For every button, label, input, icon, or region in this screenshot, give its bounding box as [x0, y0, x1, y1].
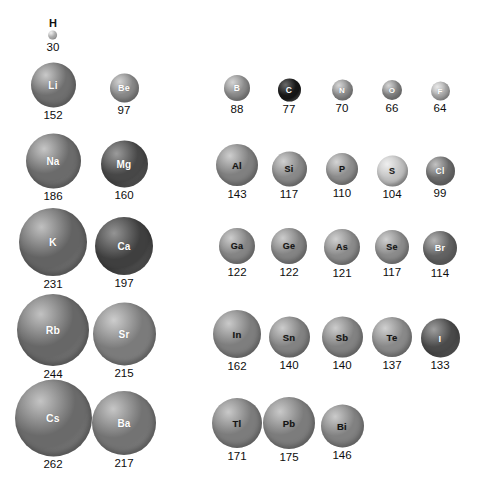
atomic-radius-value: 175	[263, 451, 315, 464]
atom-sphere-icon	[92, 391, 156, 455]
element-cs: Cs262	[15, 379, 92, 471]
atomic-radius-value: 114	[423, 267, 457, 280]
atomic-radius-value: 121	[324, 267, 360, 280]
atom-sphere-icon	[269, 316, 310, 357]
atom-sphere-icon	[213, 310, 261, 358]
sphere-container: Cl	[426, 156, 455, 185]
atomic-radius-value: 140	[322, 359, 363, 372]
atom-sphere-icon	[372, 317, 412, 357]
atomic-radius-value: 162	[213, 360, 261, 373]
element-ga: Ga122	[219, 228, 255, 279]
sphere-container: In	[213, 310, 261, 358]
sphere-container: Mg	[101, 140, 148, 187]
atomic-radius-value: 117	[272, 188, 307, 201]
atom-sphere-icon	[377, 155, 408, 186]
element-in: In162	[213, 310, 261, 373]
atomic-radius-value: 66	[382, 102, 402, 115]
sphere-container: Bi	[321, 404, 364, 447]
element-i: I133	[421, 318, 460, 372]
element-symbol-label: H	[47, 17, 60, 29]
atomic-radius-value: 160	[101, 189, 148, 202]
element-c: C77	[278, 78, 301, 116]
element-f: F64	[431, 81, 450, 115]
element-sb: Sb140	[322, 316, 363, 372]
sphere-container: Ca	[95, 217, 153, 275]
atom-sphere-icon	[19, 208, 87, 276]
element-s: S104	[377, 155, 408, 201]
atom-sphere-icon	[26, 133, 81, 188]
element-o: O66	[382, 80, 402, 115]
atom-sphere-icon	[216, 144, 258, 186]
sphere-container: N	[332, 79, 353, 100]
atomic-radius-value: 110	[326, 187, 358, 200]
atom-sphere-icon	[110, 73, 139, 102]
sphere-container: Ba	[92, 391, 156, 455]
element-se: Se117	[375, 230, 409, 279]
atom-sphere-icon	[271, 228, 307, 264]
sphere-container: F	[431, 81, 450, 100]
sphere-container: Rb	[17, 294, 89, 366]
atom-sphere-icon	[93, 302, 156, 365]
atomic-radius-value: 88	[224, 103, 250, 116]
atom-sphere-icon	[95, 217, 153, 275]
element-al: Al143	[216, 144, 258, 201]
atomic-radius-value: 146	[321, 449, 364, 462]
atom-sphere-icon	[272, 151, 307, 186]
atom-sphere-icon	[324, 229, 360, 265]
sphere-container: Te	[372, 317, 412, 357]
element-br: Br114	[423, 231, 457, 280]
element-te: Te137	[372, 317, 412, 372]
atomic-radius-value: 104	[377, 188, 408, 201]
element-sr: Sr215	[93, 302, 156, 380]
atom-sphere-icon	[212, 398, 262, 448]
element-h: H30	[47, 17, 60, 54]
sphere-container: Ge	[271, 228, 307, 264]
sphere-container: Li	[31, 62, 76, 107]
element-n: N70	[332, 79, 353, 115]
element-mg: Mg160	[101, 140, 148, 202]
sphere-container: Na	[26, 133, 81, 188]
element-as: As121	[324, 229, 360, 280]
atomic-radius-value: 215	[93, 367, 156, 380]
element-ge: Ge122	[271, 228, 307, 279]
atomic-radius-value: 117	[375, 266, 409, 279]
atomic-radius-value: 122	[219, 266, 255, 279]
sphere-container: Tl	[212, 398, 262, 448]
atomic-radius-value: 64	[431, 102, 450, 115]
atom-sphere-icon	[321, 404, 364, 447]
element-k: K231	[19, 208, 87, 291]
sphere-container: C	[278, 78, 301, 101]
element-ba: Ba217	[92, 391, 156, 470]
atom-sphere-icon	[322, 316, 363, 357]
sphere-container: Sb	[322, 316, 363, 357]
atom-sphere-icon	[48, 30, 57, 39]
sphere-container: P	[326, 153, 358, 185]
atom-sphere-icon	[375, 230, 409, 264]
sphere-container: Se	[375, 230, 409, 264]
element-cl: Cl99	[426, 156, 455, 200]
atomic-radius-value: 143	[216, 188, 258, 201]
sphere-container: I	[421, 318, 460, 357]
element-p: P110	[326, 153, 358, 200]
atom-sphere-icon	[17, 294, 89, 366]
atom-sphere-icon	[31, 62, 76, 107]
element-be: Be97	[110, 73, 139, 117]
atomic-radius-value: 231	[19, 278, 87, 291]
atom-sphere-icon	[382, 80, 402, 100]
sphere-container: Cs	[15, 379, 92, 456]
element-si: Si117	[272, 151, 307, 201]
atom-sphere-icon	[219, 228, 255, 264]
element-rb: Rb244	[17, 294, 89, 381]
element-pb: Pb175	[263, 397, 315, 464]
atom-sphere-icon	[101, 140, 148, 187]
sphere-container: Be	[110, 73, 139, 102]
atomic-radius-value: 137	[372, 359, 412, 372]
atomic-radii-figure: H30Li152Be97B88C77N70O66F64Na186Mg160Al1…	[0, 0, 480, 483]
atomic-radius-value: 197	[95, 277, 153, 290]
atomic-radius-value: 122	[271, 266, 307, 279]
sphere-container: Si	[272, 151, 307, 186]
atomic-radius-value: 30	[47, 41, 60, 54]
element-tl: Tl171	[212, 398, 262, 463]
sphere-container: O	[382, 80, 402, 100]
atomic-radius-value: 140	[269, 359, 310, 372]
